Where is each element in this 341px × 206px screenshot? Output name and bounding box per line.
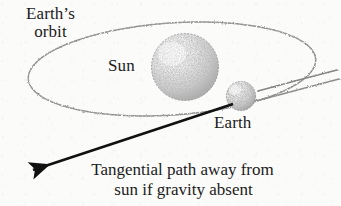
caption-line1: Tangential path away from	[0, 160, 341, 180]
label-earth: Earth	[214, 114, 251, 132]
caption-line2: sun if gravity absent	[0, 180, 341, 200]
figure-caption: Tangential path away from sun if gravity…	[0, 160, 341, 200]
earth-sphere	[226, 81, 255, 110]
sun-sphere	[152, 34, 219, 101]
label-earths-orbit: Earth’s orbit	[26, 5, 75, 41]
orbit-diagram-figure: Earth’s orbit Sun Earth Tangential path …	[0, 0, 341, 206]
label-sun: Sun	[108, 57, 135, 75]
label-earths-orbit-line1: Earth’s	[26, 4, 75, 23]
label-earths-orbit-line2: orbit	[26, 23, 75, 41]
